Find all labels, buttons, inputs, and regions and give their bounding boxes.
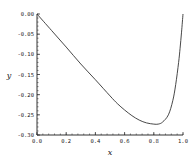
y-tick-label: -0.25 — [17, 112, 34, 118]
line-chart: 0.00-0.05-0.10-0.15-0.20-0.25-0.30 0.00.… — [0, 0, 196, 159]
axes: 0.00-0.05-0.10-0.15-0.20-0.25-0.30 0.00.… — [17, 11, 188, 144]
x-tick-label: 0.4 — [90, 138, 101, 144]
y-tick-label: -0.15 — [17, 72, 34, 78]
x-ticks: 0.00.20.40.60.81.0 — [32, 132, 188, 144]
y-tick-label: -0.05 — [17, 31, 34, 37]
y-axis-label: y — [6, 71, 12, 80]
x-tick-label: 1.0 — [178, 138, 188, 144]
y-tick-label: 0.00 — [21, 11, 34, 17]
x-tick-label: 0.0 — [32, 138, 42, 144]
y-tick-label: -0.20 — [17, 92, 34, 98]
series-line — [37, 14, 183, 124]
y-tick-label: -0.10 — [17, 51, 34, 57]
x-tick-label: 0.8 — [149, 138, 159, 144]
x-axis-label: x — [108, 148, 113, 157]
x-tick-label: 0.2 — [61, 138, 71, 144]
x-tick-label: 0.6 — [120, 138, 130, 144]
